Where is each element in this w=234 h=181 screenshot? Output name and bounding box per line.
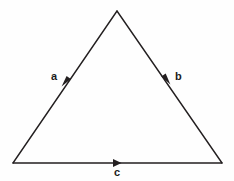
vector-label-a: a bbox=[51, 71, 57, 82]
vector-label-c: c bbox=[114, 167, 120, 178]
vector-triangle-diagram: a b c bbox=[0, 0, 234, 181]
edge-b-line bbox=[117, 11, 222, 163]
vector-label-b: b bbox=[175, 71, 182, 82]
edge-a-line bbox=[13, 11, 117, 163]
triangle-canvas bbox=[0, 0, 234, 181]
